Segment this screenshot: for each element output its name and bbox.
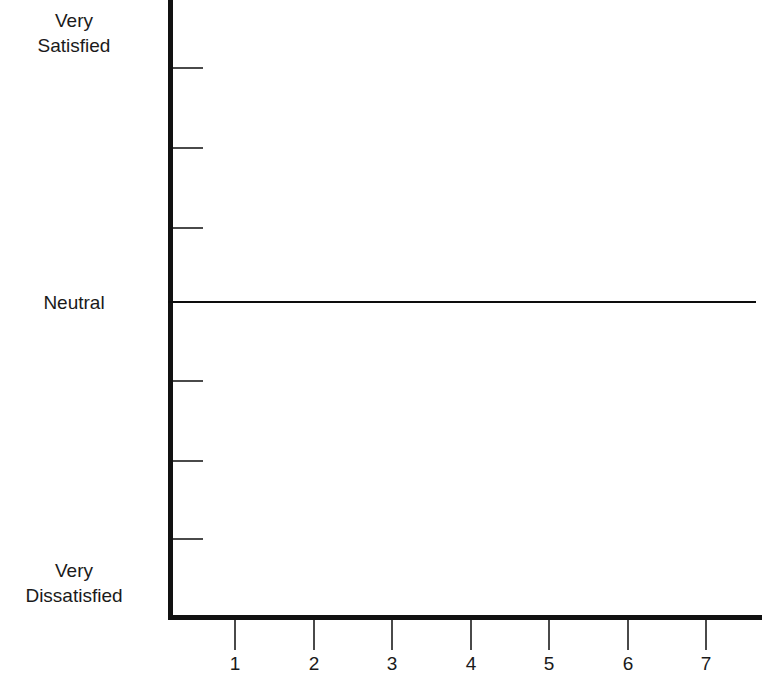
x-axis-tick <box>234 620 236 650</box>
satisfaction-chart: 1234567 Very SatisfiedNeutralVery Dissat… <box>0 0 762 695</box>
x-axis-tick-label: 4 <box>451 652 491 676</box>
ylabel-very-satisfied: Very Satisfied <box>0 8 148 58</box>
x-axis-tick-label: 7 <box>686 652 726 676</box>
x-axis-tick-label: 2 <box>294 652 334 676</box>
x-axis-tick-label: 6 <box>608 652 648 676</box>
y-axis-tick <box>173 538 203 540</box>
y-axis-tick <box>173 67 203 69</box>
ylabel-neutral: Neutral <box>0 290 148 315</box>
y-axis-tick <box>173 147 203 149</box>
x-axis-tick-label: 1 <box>215 652 255 676</box>
ylabel-very-dissatisfied: Very Dissatisfied <box>0 558 148 608</box>
x-axis-tick-label: 3 <box>372 652 412 676</box>
neutral-reference-line <box>168 301 756 303</box>
x-axis-tick <box>627 620 629 650</box>
x-axis-tick <box>548 620 550 650</box>
x-axis-tick <box>705 620 707 650</box>
y-axis-line <box>168 0 173 620</box>
y-axis-tick <box>173 460 203 462</box>
x-axis-tick <box>391 620 393 650</box>
x-axis-tick-label: 5 <box>529 652 569 676</box>
y-axis-tick <box>173 227 203 229</box>
x-axis-tick <box>470 620 472 650</box>
x-axis-line <box>168 615 762 620</box>
x-axis-tick <box>313 620 315 650</box>
y-axis-tick <box>173 380 203 382</box>
